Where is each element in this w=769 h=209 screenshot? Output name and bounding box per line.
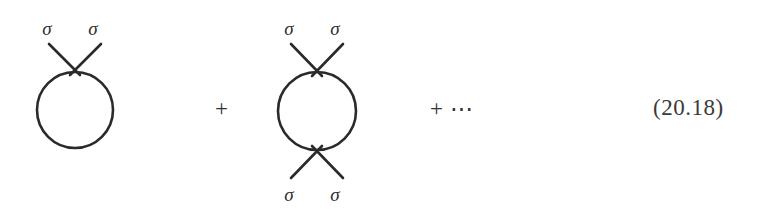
external-leg-top-right-1 xyxy=(70,44,101,75)
term-2-two-point-bubble xyxy=(278,44,356,178)
loop-circle-2 xyxy=(278,72,356,150)
equation-number: (20.18) xyxy=(653,96,724,119)
equation-figure: σ σ + σ σ σ σ + ⋯ (20.18) xyxy=(0,0,769,209)
sigma-label-term1-top-right: σ xyxy=(82,19,104,38)
sigma-label-term2-bottom-right: σ xyxy=(324,185,346,204)
term-1-one-loop-tadpole xyxy=(37,44,113,148)
plus-operator-first: + xyxy=(215,97,229,120)
external-leg-bottom-left-2 xyxy=(291,146,322,178)
loop-circle-1 xyxy=(37,72,113,148)
external-leg-top-left-1 xyxy=(49,44,80,75)
sigma-label-term1-top-left: σ xyxy=(36,19,58,38)
sigma-label-term2-bottom-left: σ xyxy=(278,185,300,204)
sigma-label-term2-top-right: σ xyxy=(324,19,346,38)
external-leg-top-right-2 xyxy=(312,44,343,76)
external-leg-bottom-right-2 xyxy=(312,146,343,178)
sigma-label-term2-top-left: σ xyxy=(278,19,300,38)
external-leg-top-left-2 xyxy=(291,44,322,76)
plus-ellipsis-operator: + ⋯ xyxy=(430,97,474,120)
